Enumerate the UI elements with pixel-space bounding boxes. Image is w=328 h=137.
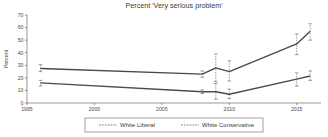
y-tick-label: 20 <box>18 75 24 81</box>
y-tick-label: 50 <box>18 37 24 43</box>
y-tick-label: 0 <box>21 100 24 106</box>
y-tick-label: 30 <box>18 62 24 68</box>
legend-label-0: White Liberal <box>120 122 155 128</box>
legend-label-1: White Conservative <box>202 122 255 128</box>
series-line-white-conservative <box>40 31 310 74</box>
chart-title: Percent 'Very serious problem' <box>125 1 223 10</box>
line-chart: Percent 'Very serious problem'0102030405… <box>0 0 328 137</box>
x-tick-label: 2010 <box>224 106 236 112</box>
y-tick-label: 70 <box>18 12 24 18</box>
x-tick-label: 2000 <box>89 106 101 112</box>
x-tick-label: 2005 <box>156 106 168 112</box>
y-tick-label: 10 <box>18 87 24 93</box>
y-tick-label: 60 <box>18 24 24 30</box>
series-line-white-liberal <box>40 76 310 94</box>
chart-container: Percent 'Very serious problem'0102030405… <box>0 0 328 137</box>
y-axis-label: Percent <box>3 49 9 68</box>
y-tick-label: 40 <box>18 50 24 56</box>
x-tick-label: 2015 <box>291 106 303 112</box>
x-tick-label: 1995 <box>21 106 33 112</box>
